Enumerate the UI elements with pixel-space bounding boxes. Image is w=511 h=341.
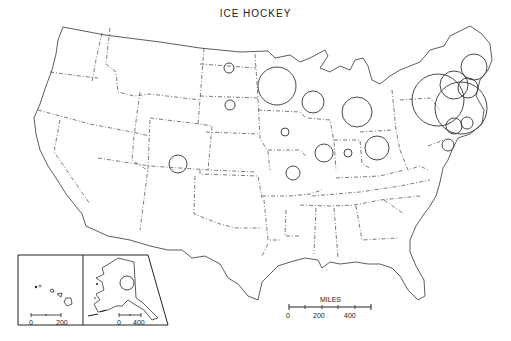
scale-tick-200: 200 <box>313 312 325 319</box>
data-circles <box>120 54 487 290</box>
circle-new-jersey <box>442 139 454 151</box>
circle-michigan <box>342 97 372 127</box>
circle-illinois <box>315 144 333 162</box>
scale-tick-400: 400 <box>344 312 356 319</box>
circle-ohio <box>365 136 389 160</box>
circle-minnesota <box>258 67 296 105</box>
scale-tick-0: 0 <box>286 312 290 319</box>
circle-missouri <box>286 166 300 180</box>
alaska-scale-0: 0 <box>117 319 121 326</box>
scale-bar-main: MILES 0 200 400 <box>286 296 371 319</box>
circle-rhode-island <box>461 117 473 129</box>
circle-massachusetts <box>435 82 487 134</box>
circle-colorado <box>169 155 187 173</box>
scale-label: MILES <box>320 296 341 303</box>
inset-hawaii-alaska: 0 200 0 400 <box>18 255 168 326</box>
alaska-scale-400: 400 <box>133 319 145 326</box>
circle-vermont <box>440 71 468 99</box>
circle-indiana <box>344 149 352 157</box>
circle-wisconsin <box>302 91 324 113</box>
circle-alaska <box>120 276 134 290</box>
circle-north-dakota <box>224 63 234 73</box>
alaska: 0 400 <box>88 258 158 326</box>
hawaii-scale-0: 0 <box>29 319 33 326</box>
hawaii-scale-200: 200 <box>56 319 68 326</box>
hawaii: 0 200 <box>29 285 72 326</box>
state-borders <box>38 28 444 258</box>
circle-south-dakota <box>225 100 235 110</box>
us-outline <box>34 26 492 300</box>
us-map: MILES 0 200 400 0 200 <box>0 0 511 341</box>
circle-iowa <box>281 128 289 136</box>
